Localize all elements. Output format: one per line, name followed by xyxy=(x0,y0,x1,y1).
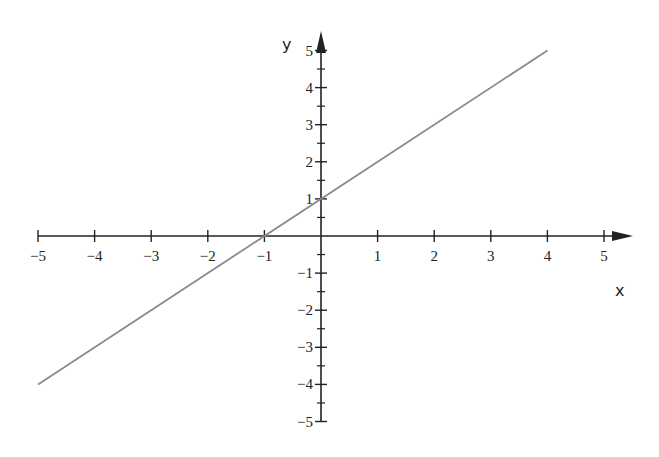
y-axis-arrow-icon xyxy=(316,31,326,53)
coordinate-plane: −5−4−3−2−112345−5−4−3−2−112345 y x xyxy=(0,0,659,457)
x-tick-label: 2 xyxy=(430,248,438,264)
axes: −5−4−3−2−112345−5−4−3−2−112345 xyxy=(30,31,633,430)
data-series xyxy=(38,51,547,385)
x-tick-label: 1 xyxy=(374,248,382,264)
y-tick-label: 2 xyxy=(306,154,314,170)
x-tick-label: −3 xyxy=(143,248,159,264)
x-tick-label: −4 xyxy=(87,248,103,264)
y-tick-label: −4 xyxy=(297,376,313,392)
y-axis-label: y xyxy=(282,35,291,54)
y-tick-label: −3 xyxy=(297,339,313,355)
y-tick-label: 4 xyxy=(306,80,314,96)
x-tick-label: −5 xyxy=(30,248,46,264)
x-tick-label: 4 xyxy=(544,248,552,264)
x-tick-label: −2 xyxy=(200,248,216,264)
x-tick-label: 5 xyxy=(600,248,608,264)
x-axis-arrow-icon xyxy=(612,231,633,241)
y-tick-label: −1 xyxy=(297,265,313,281)
y-tick-label: 5 xyxy=(306,43,314,59)
x-tick-label: 3 xyxy=(487,248,495,264)
x-tick-label: −1 xyxy=(256,248,272,264)
y-tick-label: −5 xyxy=(297,414,313,430)
x-axis-label: x xyxy=(615,281,624,300)
y-tick-label: 3 xyxy=(306,117,314,133)
y-tick-label: −2 xyxy=(297,302,313,318)
series-line xyxy=(38,51,547,385)
